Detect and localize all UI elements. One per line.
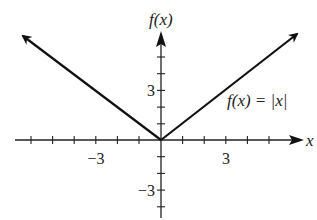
y-axis [156,31,166,218]
left-branch [23,36,161,140]
x-tick-label-3: 3 [222,150,230,167]
function-label: f(x) = |x| [227,91,287,110]
y-axis-label: f(x) [149,10,173,29]
y-tick-label-3: 3 [147,82,155,99]
x-tick-label-neg3: −3 [87,150,104,167]
right-branch [161,34,297,140]
y-tick-label-neg3: −3 [138,182,155,199]
x-axis-label: x [305,131,314,150]
absolute-value-graph: f(x) x −3 3 3 −3 f(x) = |x| [0,0,317,220]
